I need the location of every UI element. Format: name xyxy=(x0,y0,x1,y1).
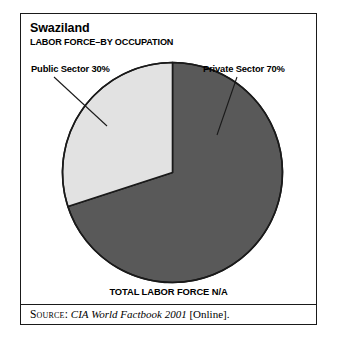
pie-label-private-sector: Private Sector 70% xyxy=(203,63,285,74)
pie-label-public-sector: Public Sector 30% xyxy=(31,63,110,74)
chart-card: Swaziland LABOR FORCE–BY OCCUPATION Publ… xyxy=(20,13,317,325)
source-work-title: CIA World Factbook 2001 xyxy=(71,308,187,320)
pie-chart xyxy=(21,14,318,326)
source-medium: [Online]. xyxy=(189,308,229,320)
total-labor-force-note: TOTAL LABOR FORCE N/A xyxy=(21,286,316,297)
source-kicker: Source: xyxy=(30,308,68,320)
source-citation: Source: CIA World Factbook 2001 [Online]… xyxy=(30,308,229,321)
source-divider xyxy=(21,304,316,305)
